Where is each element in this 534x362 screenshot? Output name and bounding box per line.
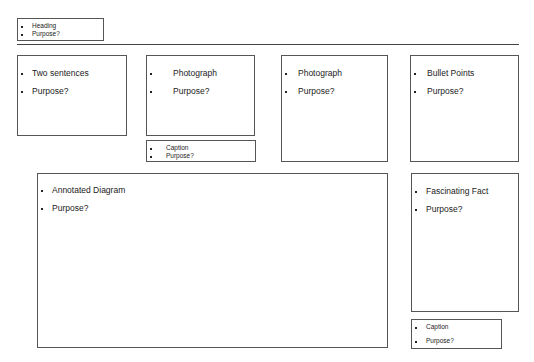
- list-item: Photograph: [282, 68, 387, 78]
- photograph-box-1: Photograph Purpose?: [146, 55, 255, 136]
- list-item: Purpose?: [38, 203, 387, 213]
- list-item: Purpose?: [18, 86, 126, 96]
- heading-box: Heading Purpose?: [17, 18, 104, 41]
- list-item: Fascinating Fact: [412, 186, 518, 196]
- photograph-box-2: Photograph Purpose?: [281, 55, 388, 162]
- list-item: Caption: [147, 144, 255, 152]
- two-sentences-box: Two sentences Purpose?: [17, 55, 127, 136]
- list-item: Photograph: [147, 68, 254, 78]
- heading-list: Heading Purpose?: [18, 22, 103, 38]
- list-item: Purpose?: [18, 30, 103, 38]
- list-item: Purpose?: [282, 86, 387, 96]
- list-item: Caption: [412, 323, 501, 331]
- list-item: Heading: [18, 22, 103, 30]
- fascinating-fact-caption-box: Caption Purpose?: [411, 319, 502, 349]
- divider-rule: [17, 44, 519, 45]
- bullet-points-box: Bullet Points Purpose?: [410, 55, 519, 162]
- fascinating-fact-box: Fascinating Fact Purpose?: [411, 173, 519, 312]
- list-item: Two sentences: [18, 68, 126, 78]
- list-item: Purpose?: [411, 86, 518, 96]
- list-item: Purpose?: [412, 337, 501, 345]
- list-item: Purpose?: [147, 86, 254, 96]
- list-item: Purpose?: [147, 152, 255, 160]
- photograph-caption-box: Caption Purpose?: [146, 140, 256, 162]
- list-item: Purpose?: [412, 204, 518, 214]
- list-item: Bullet Points: [411, 68, 518, 78]
- list-item: Annotated Diagram: [38, 185, 387, 195]
- annotated-diagram-box: Annotated Diagram Purpose?: [37, 173, 388, 348]
